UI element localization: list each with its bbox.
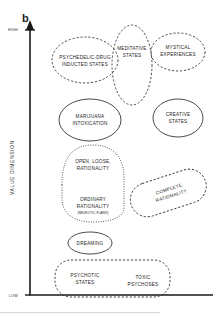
region-label-line-2: STATES: [123, 53, 142, 58]
region-marijuana-intoxication: MARIJUANA INTOXICATION: [59, 99, 121, 141]
region-label-line-2: INDUCTED STATES: [62, 62, 108, 67]
open-loose-label-line-1: OPEN, LOOSE,: [75, 159, 111, 164]
axis-group: [25, 20, 213, 295]
region-label-line-1: CREATIVE: [166, 112, 191, 117]
region-label-line-1: MYSTICAL: [166, 45, 191, 50]
region-label-line-2: EXPERIENCES: [160, 52, 195, 57]
toxic-label-line-1: TOXIC: [135, 275, 151, 280]
region-psychoses-box: PSYCHOTIC STATES TOXIC PSYCHOSES: [55, 260, 170, 297]
axis-lines: [30, 28, 213, 295]
region-label-line-1: MARIJUANA: [76, 114, 105, 119]
region-label-line-1: PSYCHEDELIC-DRUG: [59, 55, 111, 60]
region-outline: [52, 37, 118, 83]
region-outline: [126, 165, 211, 221]
region-outline: [55, 260, 170, 297]
region-outline: [59, 99, 121, 141]
axis-label-low: LOW: [9, 294, 18, 298]
region-label-line-2: STATES: [169, 119, 188, 124]
ordinary-label-line-1: ORDINARY: [80, 197, 106, 202]
ordinary-label-line-2: RATIONALITY: [77, 204, 110, 209]
region-rationality-blob: OPEN, LOOSE, RATIONALITY ORDINARY RATION…: [62, 145, 124, 222]
psychotic-label-line-1: PSYCHOTIC: [70, 273, 99, 278]
region-meditative-states: MEDITATIVE STATES: [112, 25, 152, 105]
region-dreaming: DREAMING: [68, 232, 112, 254]
region-psychedelic-drug-induced-states: PSYCHEDELIC-DRUG INDUCTED STATES: [52, 37, 118, 83]
figure-panel: b HIGH LOW VALUE DIMENSION PSYCHEDELIC-D…: [0, 0, 217, 318]
region-complete-rationality: COMPLETE RATIONALITY: [126, 165, 211, 221]
region-label-line-1: DREAMING: [77, 241, 104, 246]
region-outline: [153, 99, 203, 137]
region-outline: [112, 25, 152, 105]
panel-letter: b: [22, 12, 29, 24]
page-edge-strip: [0, 312, 160, 313]
region-creative-states: CREATIVE STATES: [153, 99, 203, 137]
axis-title-value-dimension: VALUE DIMENSION: [9, 140, 15, 195]
region-mystical-experiences: MYSTICAL EXPERIENCES: [151, 33, 205, 71]
ordinary-label-sublabel: (NEUROTIC FLAWS): [77, 211, 108, 215]
region-label-line-1: MEDITATIVE: [117, 46, 146, 51]
region-label-line-2: INTOXICATION: [72, 121, 107, 126]
open-loose-label-line-2: RATIONALITY: [77, 166, 110, 171]
psychotic-label-line-2: STATES: [76, 280, 95, 285]
axis-label-high: HIGH: [8, 28, 18, 32]
toxic-label-line-2: PSYCHOSES: [128, 282, 159, 287]
